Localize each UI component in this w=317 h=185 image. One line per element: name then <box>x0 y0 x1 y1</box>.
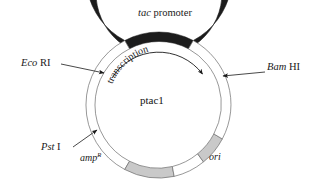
label-eco-ri-roman: RI <box>37 57 50 68</box>
label-ori: ori <box>209 152 221 162</box>
label-amp-resistance: ampR <box>80 152 101 163</box>
sector-amp-resistance <box>125 161 174 178</box>
label-tac-promoter-italic: tac <box>138 7 151 18</box>
label-pst-i-italic: Pst <box>41 141 54 152</box>
sector-white-gap-bottom <box>172 154 203 177</box>
leader-line-pst-i <box>73 130 97 147</box>
label-eco-ri-italic: Eco <box>21 57 37 68</box>
label-tac-promoter-roman: promoter <box>151 7 192 18</box>
leader-line-bam-hi <box>223 72 265 76</box>
label-tac-promoter: tac promoter <box>138 8 192 19</box>
label-amp-superscript: R <box>97 151 101 158</box>
plasmid-diagram-svg: transcription <box>0 0 317 185</box>
label-pst-i: Pst I <box>41 142 61 153</box>
label-bam-hi-italic: Bam <box>267 61 286 72</box>
label-bam-hi-roman: HI <box>286 61 300 72</box>
sector-bam-hi-white <box>188 41 231 139</box>
label-bam-hi: Bam HI <box>267 62 300 73</box>
label-eco-ri: Eco RI <box>21 58 50 69</box>
label-amp-base: amp <box>80 152 97 163</box>
label-pst-i-roman: I <box>54 141 60 152</box>
plasmid-map-figure: transcription tac promoter Eco RI Bam HI… <box>0 0 317 185</box>
label-plasmid-name: ptac1 <box>140 95 164 106</box>
